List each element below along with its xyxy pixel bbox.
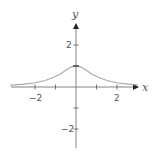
x-tick-label-neg2: −2 xyxy=(29,93,42,103)
y-tick-label-2: 2 xyxy=(66,40,72,50)
x-tick-label-2: 2 xyxy=(114,93,120,103)
curve-witch-of-agnesi xyxy=(10,66,138,85)
y-tick-label-neg2: −2 xyxy=(61,124,74,134)
function-graph: x y −2 2 2 −2 xyxy=(0,0,154,154)
y-axis-label: y xyxy=(71,8,79,21)
x-axis-label: x xyxy=(142,81,149,94)
